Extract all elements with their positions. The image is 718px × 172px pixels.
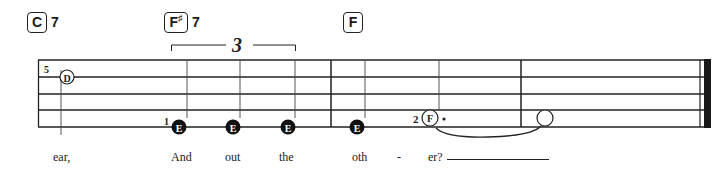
note-e: E — [172, 120, 187, 135]
finger-number: 2 — [413, 113, 419, 125]
augmentation-dot — [442, 117, 445, 120]
note-e: E — [226, 120, 241, 135]
tie-arc — [436, 126, 541, 137]
note-tied-open — [537, 110, 553, 126]
svg-text:F: F — [427, 113, 433, 124]
beat-lines — [61, 60, 439, 135]
lyric-syllable: And — [171, 150, 192, 165]
staff-lines — [38, 60, 706, 127]
svg-text:E: E — [285, 123, 292, 134]
svg-text:E: E — [354, 123, 361, 134]
svg-text:D: D — [63, 73, 70, 84]
tab-staff: 3 5 1 2 D E E E — [0, 0, 718, 172]
final-barline-thick — [704, 59, 711, 128]
finger-number: 5 — [44, 64, 49, 75]
note-e: E — [350, 120, 365, 135]
note-e: E — [281, 120, 296, 135]
lyric-hyphen: - — [397, 150, 401, 165]
lyric-syllable: er? — [428, 150, 443, 165]
note-d: D — [60, 70, 74, 84]
svg-text:E: E — [230, 123, 237, 134]
triplet-label: 3 — [231, 34, 242, 56]
lyric-syllable: out — [225, 150, 240, 165]
svg-text:E: E — [176, 123, 183, 134]
finger-number: 1 — [164, 116, 169, 127]
lyric-syllable: oth — [352, 150, 367, 165]
lyric-syllable: the — [279, 150, 294, 165]
note-f-dotted: F — [422, 110, 446, 126]
lyric-syllable: ear, — [53, 150, 70, 165]
